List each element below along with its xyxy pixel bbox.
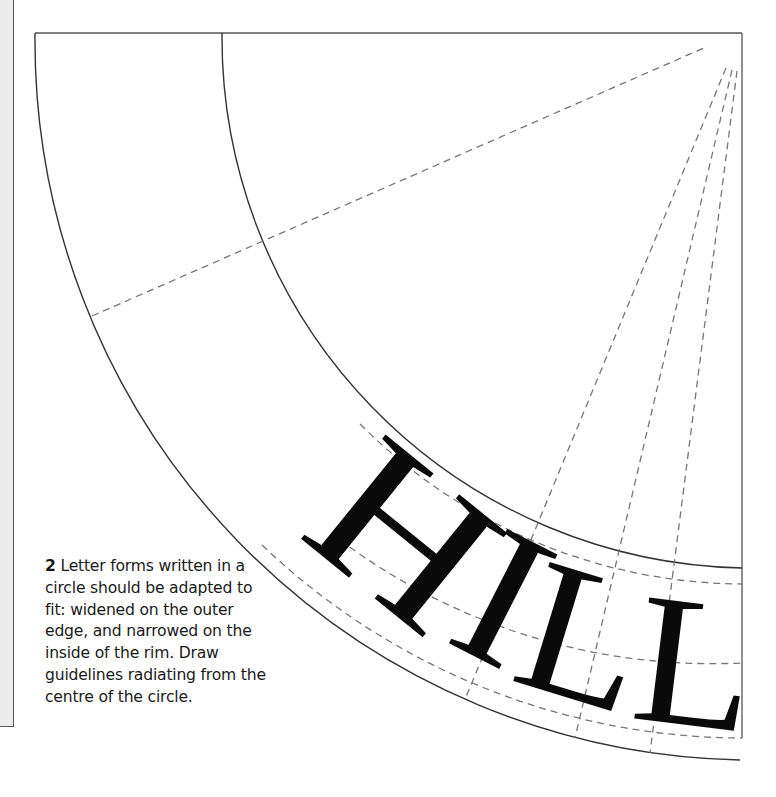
figure-number: 2 [45, 557, 56, 575]
letter-l-second: L [624, 553, 767, 772]
figure-caption: 2 Letter forms written in a circle shoul… [45, 556, 285, 709]
caption-line-3: fit: widened on the outer [45, 600, 285, 622]
caption-line-6: guidelines radiating from the [45, 665, 285, 687]
svg-text:L: L [624, 553, 767, 772]
caption-line-1: 2 Letter forms written in a [45, 556, 285, 578]
caption-line-4: edge, and narrowed on the [45, 621, 285, 643]
caption-line-2: circle should be adapted to [45, 578, 285, 600]
caption-line-5: inside of the rim. Draw [45, 643, 285, 665]
radial-guide-long [92, 47, 706, 316]
caption-line-7: centre of the circle. [45, 687, 285, 709]
